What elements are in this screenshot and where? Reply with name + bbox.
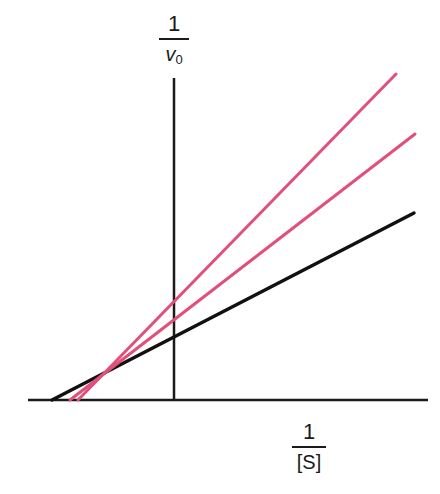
fraction-bar (159, 38, 189, 40)
chart-canvas (0, 0, 440, 494)
x-axis-label-denominator: [S] (283, 450, 335, 474)
line-inhibited-1 (70, 134, 415, 400)
y-axis-label: 1 v0 (152, 12, 196, 72)
line-inhibited-2 (78, 74, 396, 400)
series-lines (52, 74, 415, 400)
x-axis-label-numerator: 1 (283, 420, 335, 444)
fraction-bar (292, 446, 326, 448)
x-axis-label: 1 [S] (283, 420, 335, 474)
y-axis-label-denominator: v0 (152, 42, 196, 72)
y-axis-label-numerator: 1 (152, 12, 196, 36)
